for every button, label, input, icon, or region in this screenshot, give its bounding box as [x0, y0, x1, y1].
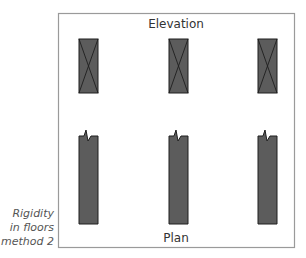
rigidity-diagram: Elevation Plan Rigidity in floors method…: [0, 0, 306, 258]
side-caption-line-2: in floors: [10, 221, 55, 234]
plan-label: Plan: [163, 231, 189, 245]
side-caption-line-3: method 2: [1, 235, 54, 248]
plan-bar-left: [79, 130, 98, 224]
elevation-bar-right: [258, 39, 277, 93]
elevation-bar-middle: [169, 39, 188, 93]
side-caption-line-1: Rigidity: [12, 207, 54, 220]
plan-bar-right: [258, 130, 277, 224]
elevation-label: Elevation: [148, 17, 204, 31]
plan-bar-middle: [169, 130, 188, 224]
elevation-bar-left: [79, 39, 98, 93]
